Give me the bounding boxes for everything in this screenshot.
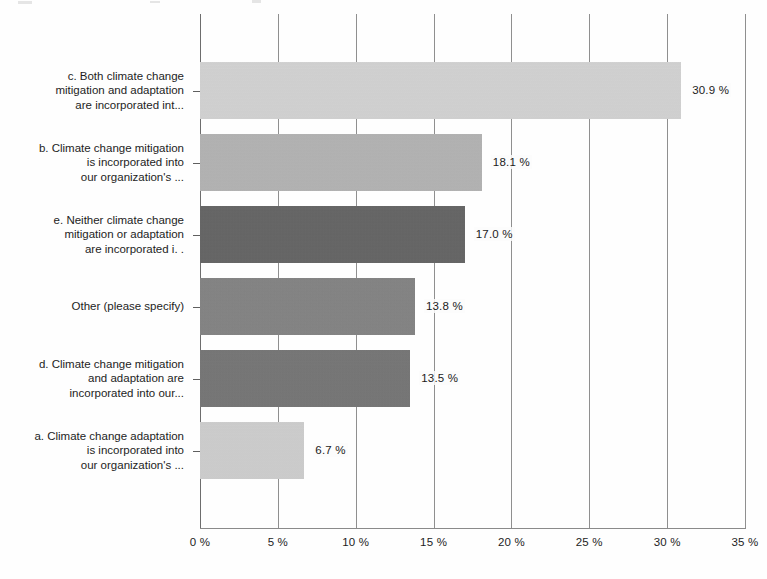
x-tick-label-15: 15 %	[420, 536, 447, 548]
bar[interactable]	[200, 350, 410, 407]
bar-value-label: 30.9 %	[690, 83, 731, 97]
scan-artifact	[18, 1, 32, 4]
category-tick	[193, 91, 200, 92]
bar[interactable]	[200, 62, 681, 119]
x-tick-label-0: 0 %	[190, 536, 210, 548]
bar-row: 18.1 %	[200, 134, 745, 191]
bar-row: 6.7 %	[200, 422, 745, 479]
category-tick	[193, 235, 200, 236]
scan-artifact	[150, 1, 160, 3]
category-label: e. Neither climate change mitigation or …	[0, 213, 192, 257]
category-tick	[193, 307, 200, 308]
bar-row: 30.9 %	[200, 62, 745, 119]
x-tick-label-5: 5 %	[268, 536, 288, 548]
bar-row: 17.0 %	[200, 206, 745, 263]
bar-chart: c. Both climate change mitigation and ad…	[0, 0, 767, 579]
bar-value-label: 18.1 %	[491, 155, 532, 169]
x-tick-label-25: 25 %	[576, 536, 603, 548]
bar-value-label: 17.0 %	[474, 227, 515, 241]
x-tick-label-20: 20 %	[498, 536, 525, 548]
bar-value-label: 13.5 %	[419, 371, 460, 385]
bar-value-label: 6.7 %	[313, 443, 347, 457]
bar[interactable]	[200, 206, 465, 263]
x-tick-label-30: 30 %	[654, 536, 681, 548]
scan-artifact	[252, 0, 261, 3]
plot-area: 30.9 %18.1 %17.0 %13.8 %13.5 %6.7 %	[200, 14, 745, 528]
category-label: Other (please specify)	[0, 299, 192, 314]
category-label: c. Both climate change mitigation and ad…	[0, 69, 192, 113]
x-tick-label-10: 10 %	[342, 536, 369, 548]
category-tick	[193, 379, 200, 380]
category-label: d. Climate change mitigation and adaptat…	[0, 357, 192, 401]
bar-row: 13.5 %	[200, 350, 745, 407]
category-label: b. Climate change mitigation is incorpor…	[0, 141, 192, 185]
gridline-35	[745, 14, 746, 528]
bar-row: 13.8 %	[200, 278, 745, 335]
bar[interactable]	[200, 278, 415, 335]
bar[interactable]	[200, 422, 304, 479]
bar-value-label: 13.8 %	[424, 299, 465, 313]
x-tick-label-35: 35 %	[731, 536, 758, 548]
x-axis-line	[200, 528, 746, 529]
category-label: a. Climate change adaptation is incorpor…	[0, 429, 192, 473]
category-tick	[193, 451, 200, 452]
bar[interactable]	[200, 134, 482, 191]
category-tick	[193, 163, 200, 164]
